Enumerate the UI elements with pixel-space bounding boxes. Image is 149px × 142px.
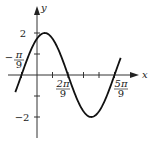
svg-text:9: 9 xyxy=(16,59,22,70)
svg-text:9: 9 xyxy=(60,88,66,99)
y-axis-label: y xyxy=(40,2,47,13)
y-tick-label-2: 2 xyxy=(20,28,26,39)
svg-text:−: − xyxy=(5,52,13,63)
x-axis-arrow-icon xyxy=(130,72,139,78)
x-tick-label-2pi-9: 2π 9 xyxy=(56,78,70,99)
y-tick-label-neg2: −2 xyxy=(15,112,30,123)
sine-chart: y x 2 −2 − π 9 2π 9 5π 9 xyxy=(0,0,149,142)
y-axis-arrow-icon xyxy=(34,6,40,15)
svg-text:9: 9 xyxy=(118,88,124,99)
x-tick-label-5pi-9: 5π 9 xyxy=(114,78,128,99)
x-axis-label: x xyxy=(142,69,148,80)
x-tick-label-neg-pi-9: − π 9 xyxy=(5,49,24,70)
